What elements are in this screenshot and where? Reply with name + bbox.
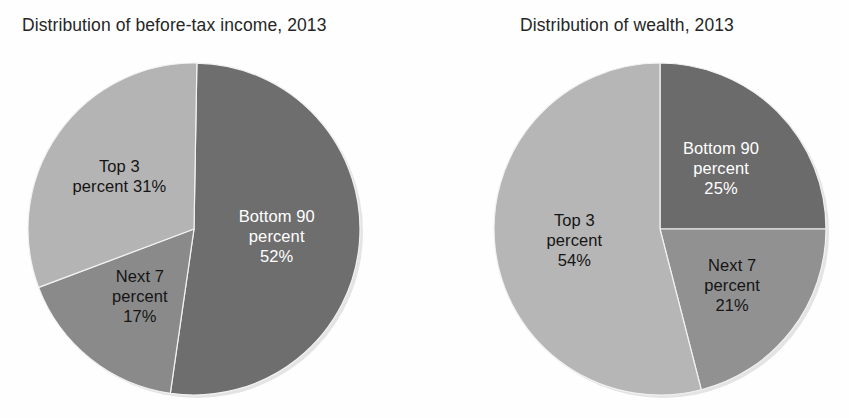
pie-chart-income: Bottom 90percent52%Next 7percent17%Top 3… [0,0,425,418]
figure-two-pie-charts: Distribution of before-tax income, 2013 … [0,0,849,418]
pie-svg-wealth [425,0,849,418]
pie-svg-income [0,0,425,418]
pie-slice[interactable] [660,63,826,229]
pie-chart-wealth: Bottom 90percent25%Next 7percent21%Top 3… [425,0,849,418]
chart-panel-income: Distribution of before-tax income, 2013 … [0,0,425,418]
chart-panel-wealth: Distribution of wealth, 2013 Bottom 90pe… [425,0,849,418]
pie-slice[interactable] [170,63,360,395]
